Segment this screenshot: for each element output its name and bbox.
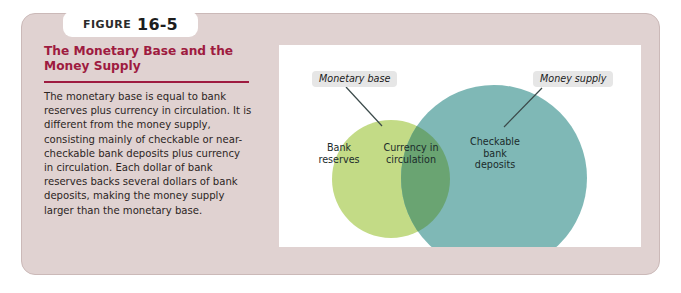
venn-diagram-panel: Bank reserves Currency in circulation Ch…	[279, 45, 641, 247]
region-label-bank-reserves: Bank reserves	[306, 142, 372, 165]
figure-number-tab: FIGURE 16-5	[63, 11, 198, 37]
figure-card: FIGURE 16-5 The Monetary Base and the Mo…	[21, 13, 660, 275]
region-label-checkable-bank-deposits: Checkable bank deposits	[454, 136, 536, 171]
figure-caption-text: The monetary base is equal to bank reser…	[44, 90, 252, 218]
figure-tab-number: 16-5	[137, 15, 178, 34]
callout-monetary-base: Monetary base	[312, 71, 397, 87]
figure-tab-word: FIGURE	[83, 18, 131, 31]
figure-text-column: The Monetary Base and the Money Supply T…	[44, 44, 258, 218]
callout-money-supply: Money supply	[533, 71, 613, 87]
title-divider	[44, 81, 249, 83]
region-label-currency-in-circulation: Currency in circulation	[375, 142, 447, 165]
figure-title: The Monetary Base and the Money Supply	[44, 44, 258, 74]
leader-line-monetary-base	[346, 87, 382, 126]
